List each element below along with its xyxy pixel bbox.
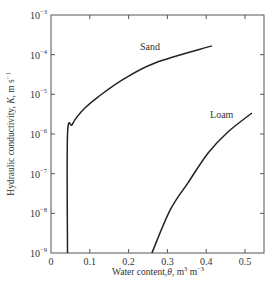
x-tick-label: 0: [49, 256, 54, 267]
x-tick-label: 0.5: [239, 256, 252, 267]
x-tick-label: 0.1: [84, 256, 97, 267]
series-label-loam: Loam: [210, 109, 234, 120]
y-tick-label: 10−5: [30, 87, 47, 100]
series-label-sand: Sand: [140, 41, 160, 52]
x-axis-label: Water content,θ, m3 m−3: [112, 265, 204, 277]
series-line-loam: [152, 113, 252, 253]
x-tick-label: 0.2: [122, 256, 135, 267]
y-tick-label: 10−3: [30, 8, 47, 21]
y-tick-label: 10−7: [30, 167, 48, 180]
y-tick-label: 10−9: [30, 246, 47, 259]
x-tick-label: 0.3: [161, 256, 174, 267]
hydraulic-conductivity-chart: 00.10.20.30.40.5 10−910−810−710−610−510−…: [0, 0, 274, 289]
y-tick-label: 10−6: [30, 127, 48, 140]
series-lines: [67, 46, 252, 253]
series-line-sand: [67, 46, 212, 253]
x-axis-ticks: 00.10.20.30.40.5: [49, 15, 252, 267]
y-tick-label: 10−4: [30, 48, 48, 61]
y-tick-label: 10−8: [30, 206, 47, 219]
y-axis-label: Hydraulic conductivity, K, m s−1: [4, 72, 16, 195]
